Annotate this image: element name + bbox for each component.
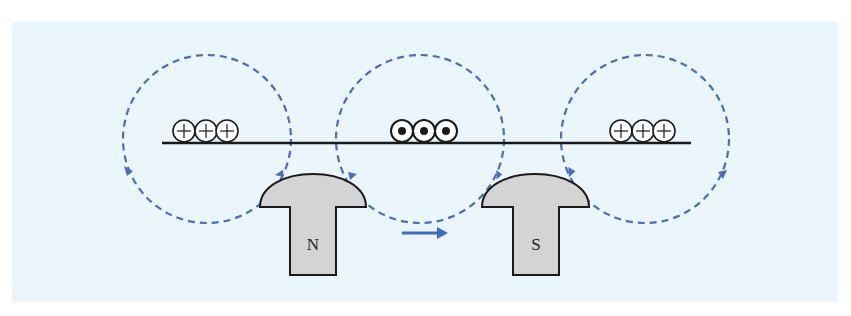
- motion-arrow-right-icon: [402, 227, 448, 239]
- current-into-page-left: [173, 120, 238, 142]
- current-out-of-page-center: [391, 120, 457, 142]
- current-into-page-right: [610, 120, 675, 142]
- magnet-north-pole: N: [260, 174, 366, 275]
- pole-label-n: N: [307, 235, 319, 254]
- magnet-south-pole: S: [482, 174, 589, 275]
- eddy-current-diagram: N S: [0, 0, 851, 316]
- pole-label-s: S: [531, 235, 540, 254]
